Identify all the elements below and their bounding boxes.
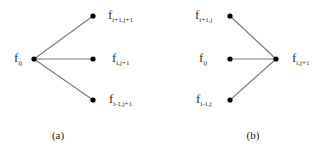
- caption-b: (b): [247, 129, 260, 142]
- edge-b-s1-dst: [230, 16, 276, 59]
- panel-b: fi+1,j fij fi-1,j fi,j+1 (b): [195, 7, 310, 142]
- node-b-s2: [227, 56, 232, 61]
- label-b-s2: fij: [199, 50, 207, 67]
- node-b-dst: [273, 56, 278, 61]
- edge-b-s3-dst: [230, 59, 276, 100]
- label-a-src: fij: [14, 50, 22, 67]
- label-b-s1: fi+1,j: [195, 7, 212, 24]
- node-a-src: [31, 56, 36, 61]
- edge-a-src-t3: [34, 59, 93, 100]
- caption-a: (a): [52, 129, 65, 142]
- node-a-t2: [90, 56, 95, 61]
- label-a-t2: fi,j+1: [112, 50, 130, 67]
- node-a-t3: [90, 97, 95, 102]
- diagram-canvas: fij fi+1,j+1 fi,j+1 fi-1,j+1 (a) fi+1,j …: [0, 0, 320, 147]
- node-a-t1: [90, 13, 95, 18]
- node-b-s3: [227, 97, 232, 102]
- label-a-t3: fi-1,j+1: [109, 91, 133, 108]
- node-b-s1: [227, 13, 232, 18]
- label-b-s3: fi-1,j: [196, 91, 212, 108]
- label-a-t1: fi+1,j+1: [108, 7, 133, 24]
- label-b-dst: fi,j+1: [292, 50, 310, 67]
- edge-a-src-t1: [34, 16, 93, 59]
- panel-a: fij fi+1,j+1 fi,j+1 fi-1,j+1 (a): [14, 7, 133, 142]
